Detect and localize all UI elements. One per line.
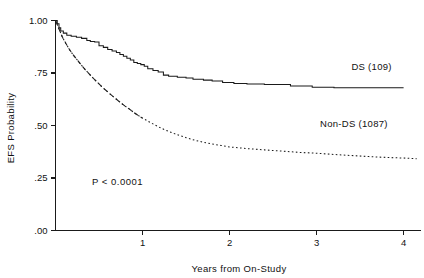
- x-tick-label: 4: [401, 237, 406, 248]
- non-ds-survival-curve: [56, 21, 417, 159]
- y-tick-label: .00: [34, 225, 47, 236]
- ds-survival-curve: [56, 21, 404, 88]
- x-axis-title: Years from On-Study: [191, 263, 286, 274]
- chart-annotations: P < 0.0001DS (109)Non-DS (1087): [92, 61, 392, 188]
- x-axis-ticks: 1234: [140, 231, 406, 248]
- nondsries-label: Non-DS (1087): [320, 118, 388, 129]
- y-tick-label: .50: [34, 120, 47, 131]
- ds-series-label: DS (109): [351, 61, 391, 72]
- y-tick-label: 1.00: [29, 15, 48, 26]
- x-tick-label: 2: [227, 237, 232, 248]
- kaplan-meier-figure: .00.25.50.751.00 1234 P < 0.0001DS (109)…: [0, 0, 424, 278]
- x-tick-label: 3: [314, 237, 319, 248]
- x-tick-label: 1: [140, 237, 145, 248]
- p-value-annotation: P < 0.0001: [92, 176, 143, 187]
- y-axis-ticks: .00.25.50.751.00: [29, 15, 56, 236]
- y-tick-label: .25: [34, 172, 47, 183]
- efs-probability-chart: .00.25.50.751.00 1234 P < 0.0001DS (109)…: [0, 0, 424, 278]
- y-axis-title: EFS Probability: [5, 93, 16, 164]
- y-tick-label: .75: [34, 67, 47, 78]
